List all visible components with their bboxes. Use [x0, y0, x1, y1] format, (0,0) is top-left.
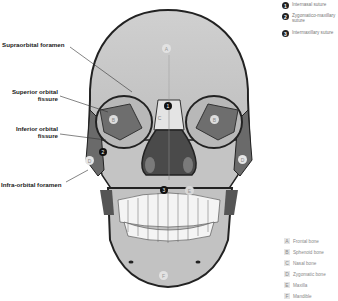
suture-key-3: 3 Intermaxillary suture — [282, 30, 338, 37]
legend-nasal: CNasal bone — [284, 260, 316, 266]
suture-key-2: 2 Zygomatico-maxillary suture — [282, 13, 338, 23]
legend-maxilla: EMaxilla — [284, 282, 307, 288]
marker-3: 3 — [160, 186, 168, 194]
marker-b-left: B — [210, 115, 219, 124]
marker-1: 1 — [164, 102, 172, 110]
suture-key-1: 1 Internasal suture — [282, 2, 338, 9]
legend-sphenoid: BSphenoid bone — [284, 249, 324, 255]
label-inferior-orbital-fissure: Inferior orbital fissure — [8, 125, 58, 139]
teeth — [118, 193, 220, 241]
legend-zygomatic: DZygomatic bone — [284, 271, 326, 277]
marker-d-right: D — [85, 156, 94, 165]
label-supraorbital-foramen: Supraorbital foramen — [2, 41, 65, 48]
marker-f: F — [159, 271, 168, 280]
legend-mandible: FMandible — [284, 293, 312, 299]
label-superior-orbital-fissure: Superior orbital fissure — [8, 88, 58, 102]
legend-frontal: AFrontal bone — [284, 238, 319, 244]
marker-b-right: B — [109, 115, 118, 124]
marker-a: A — [162, 44, 171, 53]
marker-c: C — [156, 114, 163, 121]
marker-e: E — [185, 186, 194, 195]
marker-2: 2 — [99, 148, 107, 156]
marker-d-left: D — [238, 155, 247, 164]
label-infraorbital-foramen: Infra-orbital foramen — [1, 181, 62, 188]
